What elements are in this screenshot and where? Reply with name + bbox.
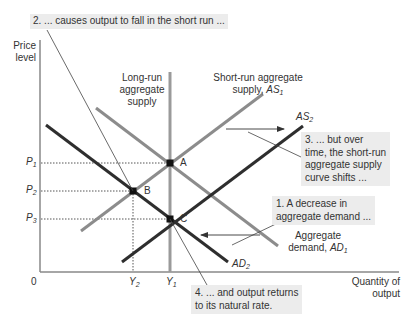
callout-4-line2: to its natural rate. (195, 300, 298, 313)
y-axis-label: Price level (2, 40, 36, 64)
origin-label: 0 (31, 276, 37, 288)
point-c-label: C (180, 213, 187, 225)
ad1-sym: AD (330, 242, 344, 253)
callout-2: 2. ... causes output to fall in the shor… (30, 14, 228, 29)
p3-tick-label: P3 (26, 212, 37, 224)
callout-4-line1: 4. ... and output returns (195, 287, 298, 300)
callout-4: 4. ... and output returns to its natural… (191, 285, 302, 314)
as2-label: AS2 (296, 111, 313, 123)
callout-1-line2: aggregate demand ... (276, 211, 371, 224)
y-axis-label-line2: level (2, 52, 36, 64)
lras-label-line2: aggregate (118, 84, 166, 96)
x-axis-label: Quantity of output (340, 276, 400, 300)
callout2-leader (47, 30, 133, 191)
as2-sym: AS (296, 111, 309, 122)
callout-3: 3. ... but over time, the short-run aggr… (301, 132, 390, 186)
y1-sub: 1 (173, 281, 177, 288)
y2-sym: Y (129, 276, 136, 287)
point-a-marker (167, 160, 174, 167)
lras-label-line1: Long-run (118, 72, 166, 84)
callout-3-line2: time, the short-run (305, 147, 386, 160)
p3-sym: P (26, 212, 33, 223)
callout-1-line1: 1. A decrease in (276, 198, 371, 211)
y-axis-label-line1: Price (2, 40, 36, 52)
as1-label: Short-run aggregate supply, AS1 (212, 72, 304, 96)
ad1-label-line1: Aggregate (282, 230, 354, 242)
x-axis-label-line1: Quantity of (340, 276, 400, 288)
p2-sub: 2 (33, 189, 37, 196)
x-axis-label-line2: output (340, 288, 400, 300)
as1-label-line2: supply, AS1 (212, 84, 304, 96)
y1-sym: Y (166, 276, 173, 287)
as1-label-text: supply, (233, 84, 267, 95)
callout3-leader (248, 132, 301, 157)
p1-tick-label: P1 (26, 156, 37, 168)
ad2-curve (46, 125, 228, 262)
callout-3-line4: curve shifts ... (305, 172, 386, 185)
point-b-label: B (144, 185, 151, 197)
y2-tick-label: Y2 (129, 276, 140, 288)
lras-label: Long-run aggregate supply (118, 72, 166, 108)
callout-1: 1. A decrease in aggregate demand ... (272, 196, 375, 225)
callout-2-line1: 2. ... causes output to fall in the shor… (33, 15, 225, 28)
as1-sub: 1 (280, 89, 284, 96)
ad2-sym: AD (232, 258, 246, 269)
as2-sub: 2 (309, 116, 313, 123)
point-a-label: A (180, 157, 187, 169)
as1-label-line1: Short-run aggregate (212, 72, 304, 84)
p3-sub: 3 (33, 217, 37, 224)
callout-3-line1: 3. ... but over (305, 134, 386, 147)
callout-3-line3: aggregate supply (305, 159, 386, 172)
p1-sym: P (26, 156, 33, 167)
ad2-label: AD2 (232, 258, 250, 270)
as1-sym: AS (266, 84, 279, 95)
p2-sym: P (26, 184, 33, 195)
y2-sub: 2 (136, 281, 140, 288)
p2-tick-label: P2 (26, 184, 37, 196)
ad2-sub: 2 (246, 263, 250, 270)
ad1-label-line2: demand, AD1 (282, 242, 354, 254)
p1-sub: 1 (33, 161, 37, 168)
ad1-sub: 1 (344, 247, 348, 254)
lras-label-line3: supply (118, 96, 166, 108)
ad1-label: Aggregate demand, AD1 (282, 230, 354, 254)
y1-tick-label: Y1 (166, 276, 177, 288)
ad1-label-text: demand, (288, 242, 330, 253)
